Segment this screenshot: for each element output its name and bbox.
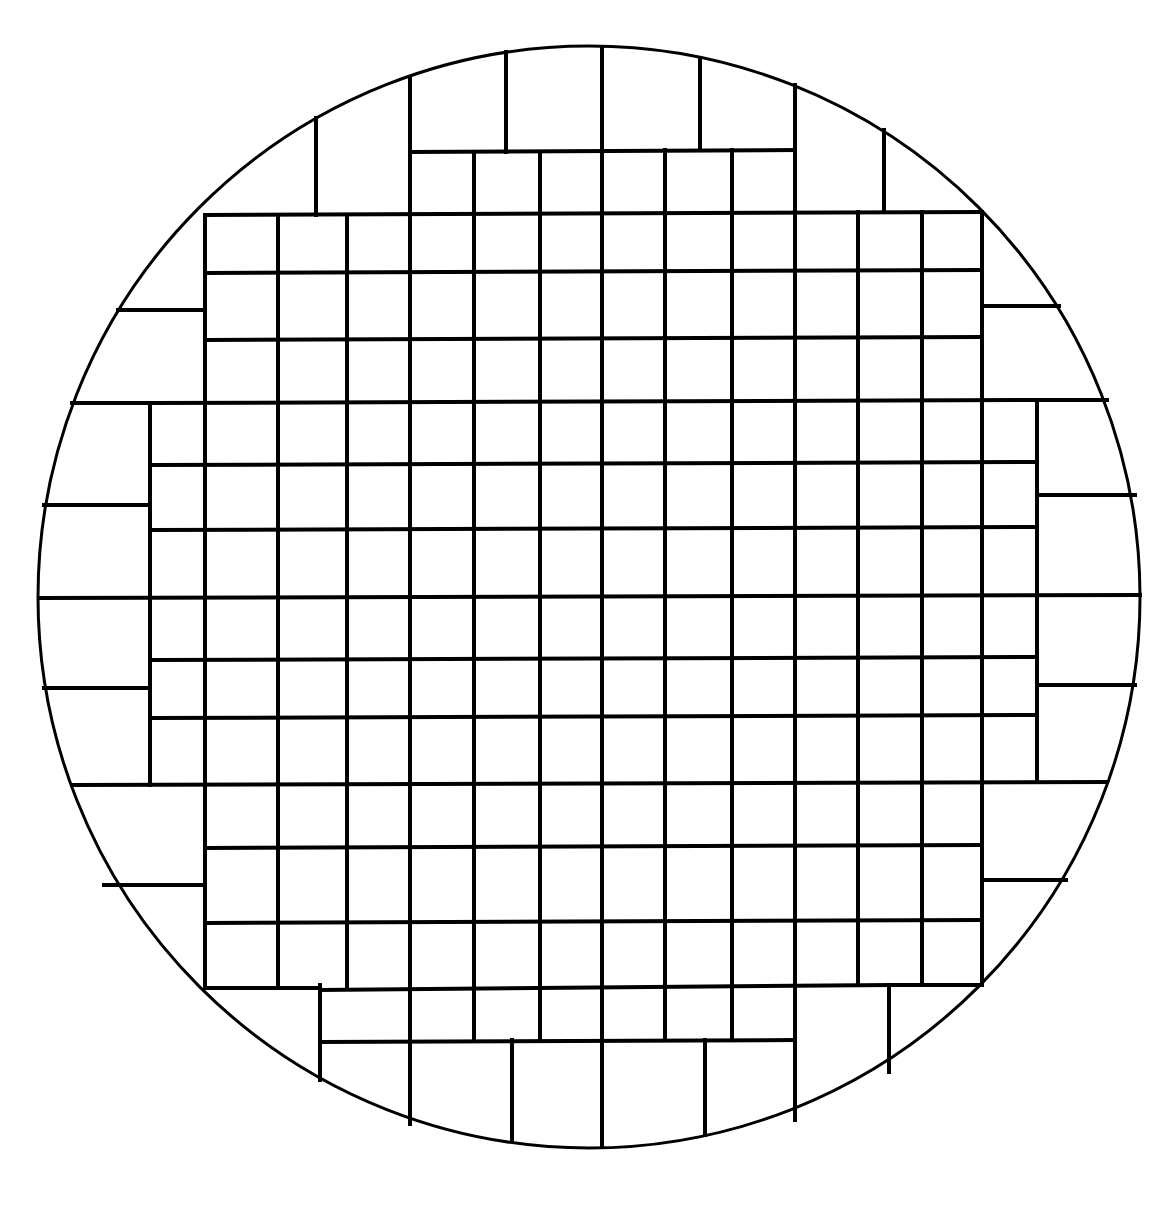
grid-line [320,1040,795,1042]
background [0,0,1163,1211]
wafer-map-diagram [0,0,1163,1211]
